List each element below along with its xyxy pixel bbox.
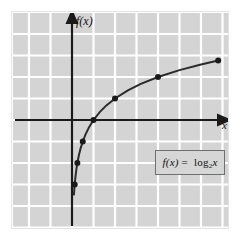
- formula-function-name: f(x): [163, 156, 179, 168]
- data-point: [91, 117, 97, 123]
- x-axis-label: x: [222, 119, 227, 131]
- y-axis-label: f(x): [76, 14, 93, 29]
- data-point: [80, 139, 86, 145]
- axes-group: [15, 22, 219, 226]
- data-point: [74, 160, 80, 166]
- data-point: [215, 57, 221, 63]
- plot-area: [13, 13, 228, 228]
- formula-log-word: log: [194, 156, 209, 168]
- log-function-graph-figure: f(x) x f(x)=log2x: [0, 0, 245, 250]
- formula-text: f(x)=log2x: [163, 156, 218, 170]
- data-point: [112, 96, 118, 102]
- data-point: [155, 74, 161, 80]
- curve-and-axes: [13, 13, 228, 228]
- data-point: [72, 182, 78, 188]
- formula-equals: =: [182, 156, 188, 168]
- formula-box: f(x)=log2x: [155, 150, 225, 175]
- formula-argument: x: [212, 156, 217, 168]
